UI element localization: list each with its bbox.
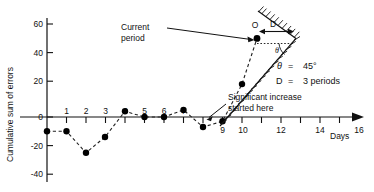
data-point-day10 — [239, 81, 245, 87]
significant-increase-leader-line — [209, 104, 226, 118]
y-tick-label-20: 20 — [34, 76, 44, 86]
x-tick-label-10: 10 — [238, 125, 248, 135]
significant-increase-label-line2: started here — [228, 103, 274, 113]
lead-distance-arrow — [259, 29, 294, 35]
d-symbol: D — [276, 76, 283, 86]
x-tick-label-12: 12 — [276, 125, 286, 135]
data-point-day2 — [83, 150, 89, 156]
d-equals: = — [288, 76, 293, 86]
data-point-day3 — [102, 134, 108, 140]
x-tick-label-1: 1 — [64, 106, 69, 116]
y-tick-label-neg20: -20 — [31, 141, 44, 151]
y-tick-label-0: 0 — [38, 112, 43, 122]
y-axis-title: Cumulative sum of errors — [5, 67, 15, 162]
significant-increase-label-line1: Significant increase — [228, 92, 302, 102]
data-point-day1 — [63, 128, 69, 134]
data-point-day7 — [180, 107, 186, 113]
x-tick-label-2: 2 — [84, 106, 89, 116]
theta-equals: = — [288, 61, 293, 71]
theta-angle-label: θ — [275, 46, 279, 55]
x-axis-arrow-icon — [352, 113, 364, 122]
chart-svg: 60 40 20 0 -20 -40 Cumulative sum of err… — [0, 0, 374, 192]
current-period-label-line1: Current — [121, 22, 150, 32]
parameter-block: θ = 45° D = 3 periods — [276, 61, 341, 86]
origin-point-label: O — [252, 20, 259, 30]
y-tick-label-60: 60 — [34, 19, 44, 29]
x-tick-label-16: 16 — [354, 125, 364, 135]
cusum-chart-with-vmask: 60 40 20 0 -20 -40 Cumulative sum of err… — [0, 0, 374, 192]
current-period-leader-line — [167, 28, 251, 40]
theta-value: 45° — [303, 61, 317, 71]
data-line — [47, 38, 257, 152]
data-point-day0 — [44, 128, 50, 134]
arrow-left-head-icon — [259, 29, 265, 35]
data-point-day6 — [161, 114, 167, 120]
current-period-arrowhead-icon — [248, 37, 255, 43]
theta-symbol: θ — [277, 61, 282, 71]
x-tick-label-9: 9 — [220, 125, 225, 135]
x-tick-label-3: 3 — [103, 106, 108, 116]
y-axis-ticks — [47, 24, 53, 174]
d-value: 3 periods — [303, 76, 341, 86]
x-tick-label-14: 14 — [315, 125, 325, 135]
x-axis-ticks — [67, 117, 340, 123]
y-tick-label-neg40: -40 — [31, 169, 44, 179]
y-axis-tick-labels: 60 40 20 0 -20 -40 — [31, 19, 44, 179]
data-point-day8 — [200, 124, 206, 130]
lead-distance-label: D — [270, 19, 276, 29]
data-point-day4 — [122, 108, 128, 114]
data-point-day5 — [141, 114, 147, 120]
y-tick-label-40: 40 — [34, 48, 44, 58]
x-axis-title: Days — [330, 131, 349, 141]
current-period-label-line2: period — [121, 33, 145, 43]
